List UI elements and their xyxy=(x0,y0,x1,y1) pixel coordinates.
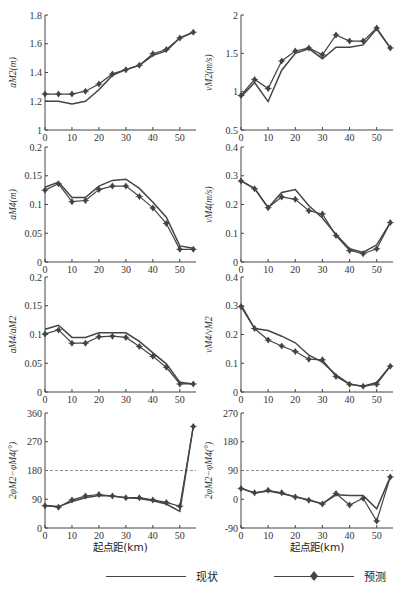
subplot-aM4: 00.050.10.150.201020304050aM4(m) xyxy=(8,142,197,276)
svg-text:10: 10 xyxy=(67,264,77,275)
svg-text:20: 20 xyxy=(290,132,300,143)
svg-text:50: 50 xyxy=(372,394,382,405)
svg-text:0: 0 xyxy=(233,257,238,268)
svg-text:0: 0 xyxy=(37,387,42,398)
svg-text:360: 360 xyxy=(27,408,42,419)
svg-text:270: 270 xyxy=(27,436,42,447)
svg-text:0.15: 0.15 xyxy=(25,300,43,311)
subplot-aM4_aM2: 00.050.10.150.201020304050aM4/aM2 xyxy=(8,272,197,406)
svg-text:20: 20 xyxy=(94,264,104,275)
svg-text:0.05: 0.05 xyxy=(25,228,43,239)
svg-text:0.1: 0.1 xyxy=(30,329,43,340)
svg-text:20: 20 xyxy=(94,132,104,143)
svg-text:30: 30 xyxy=(121,530,131,541)
svg-text:40: 40 xyxy=(345,530,355,541)
svg-text:2: 2 xyxy=(233,10,238,21)
legend-label-predicted: 预测 xyxy=(364,568,386,584)
svg-text:起点距(km): 起点距(km) xyxy=(93,541,148,553)
subplot-aM2: 11.21.41.61.801020304050aM2(m) xyxy=(8,10,197,144)
legend-label-current: 现状 xyxy=(196,568,218,584)
svg-text:0.4: 0.4 xyxy=(226,272,239,283)
figure-canvas: 11.21.41.61.801020304050aM2(m)0.511.5201… xyxy=(0,0,406,598)
svg-text:0.1: 0.1 xyxy=(226,358,239,369)
svg-text:vM4(m/s): vM4(m/s) xyxy=(204,186,215,222)
svg-text:0.05: 0.05 xyxy=(25,358,43,369)
svg-text:50: 50 xyxy=(175,530,185,541)
svg-text:0.2: 0.2 xyxy=(30,142,43,153)
svg-text:0: 0 xyxy=(233,387,238,398)
svg-text:40: 40 xyxy=(345,132,355,143)
svg-text:2φM2−φM4(°): 2φM2−φM4(°) xyxy=(8,442,19,499)
svg-text:10: 10 xyxy=(263,530,273,541)
svg-text:aM2(m): aM2(m) xyxy=(8,57,19,88)
svg-text:180: 180 xyxy=(27,465,42,476)
svg-text:50: 50 xyxy=(175,394,185,405)
svg-text:0: 0 xyxy=(37,257,42,268)
svg-text:1.6: 1.6 xyxy=(30,38,43,49)
svg-text:40: 40 xyxy=(148,264,158,275)
svg-text:0.2: 0.2 xyxy=(30,272,43,283)
svg-text:40: 40 xyxy=(148,530,158,541)
svg-text:0.3: 0.3 xyxy=(226,300,239,311)
svg-text:aM4(m): aM4(m) xyxy=(8,189,19,220)
svg-text:0.2: 0.2 xyxy=(226,199,239,210)
svg-text:1.8: 1.8 xyxy=(30,10,43,21)
svg-text:30: 30 xyxy=(121,394,131,405)
svg-text:10: 10 xyxy=(67,394,77,405)
svg-text:40: 40 xyxy=(345,264,355,275)
svg-text:10: 10 xyxy=(67,132,77,143)
svg-text:30: 30 xyxy=(121,132,131,143)
svg-text:0.5: 0.5 xyxy=(226,125,239,136)
svg-text:1: 1 xyxy=(233,86,238,97)
svg-text:20: 20 xyxy=(290,264,300,275)
svg-text:10: 10 xyxy=(263,132,273,143)
svg-text:1: 1 xyxy=(37,125,42,136)
svg-text:0.15: 0.15 xyxy=(25,170,43,181)
svg-text:0: 0 xyxy=(233,494,238,505)
svg-text:0: 0 xyxy=(239,530,244,541)
svg-text:aM4/aM2: aM4/aM2 xyxy=(8,316,18,354)
svg-text:20: 20 xyxy=(94,394,104,405)
svg-text:起点距(km): 起点距(km) xyxy=(290,541,345,553)
svg-text:-90: -90 xyxy=(225,523,238,534)
svg-text:30: 30 xyxy=(317,264,327,275)
svg-text:20: 20 xyxy=(290,394,300,405)
svg-text:2φM2−φM4(°): 2φM2−φM4(°) xyxy=(204,442,215,499)
subplot-phase_surface: 090180270360010203040502φM2−φM4(°)起点距(km… xyxy=(8,408,197,554)
svg-text:50: 50 xyxy=(175,264,185,275)
subplot-vM4: 00.10.20.30.401020304050vM4(m/s) xyxy=(204,142,394,276)
subplot-vM4_vM2: 00.10.20.30.401020304050vM4/vM2 xyxy=(204,272,394,406)
svg-text:0: 0 xyxy=(239,264,244,275)
svg-text:0: 0 xyxy=(43,530,48,541)
svg-text:10: 10 xyxy=(263,264,273,275)
svg-text:0.3: 0.3 xyxy=(226,170,239,181)
svg-text:10: 10 xyxy=(263,394,273,405)
diamond-marker-icon xyxy=(310,571,318,581)
svg-text:20: 20 xyxy=(290,530,300,541)
svg-text:50: 50 xyxy=(372,132,382,143)
svg-text:30: 30 xyxy=(317,394,327,405)
svg-text:0.2: 0.2 xyxy=(226,329,239,340)
svg-text:0: 0 xyxy=(43,264,48,275)
svg-text:30: 30 xyxy=(317,132,327,143)
svg-text:0.1: 0.1 xyxy=(226,228,239,239)
subplot-phase_velocity: -90090180270010203040502φM2−φM4(°)起点距(km… xyxy=(204,408,394,554)
svg-text:180: 180 xyxy=(223,436,238,447)
svg-text:40: 40 xyxy=(345,394,355,405)
svg-text:0: 0 xyxy=(43,394,48,405)
svg-text:50: 50 xyxy=(372,264,382,275)
svg-text:0: 0 xyxy=(37,523,42,534)
svg-text:1.4: 1.4 xyxy=(30,67,43,78)
svg-text:30: 30 xyxy=(121,264,131,275)
svg-text:270: 270 xyxy=(223,408,238,419)
subplot-vM2: 0.511.5201020304050vM2(m/s) xyxy=(204,10,394,144)
svg-text:1.5: 1.5 xyxy=(226,48,239,59)
svg-text:0: 0 xyxy=(43,132,48,143)
svg-text:0: 0 xyxy=(239,394,244,405)
legend-line-current xyxy=(106,576,186,577)
svg-text:vM4/vM2: vM4/vM2 xyxy=(204,316,214,353)
svg-text:50: 50 xyxy=(372,530,382,541)
svg-text:30: 30 xyxy=(317,530,327,541)
svg-text:vM2(m/s): vM2(m/s) xyxy=(204,54,215,90)
svg-text:90: 90 xyxy=(228,465,238,476)
